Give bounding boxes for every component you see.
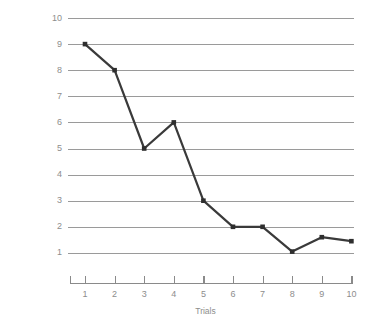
x-axis-tick-label: 1 bbox=[73, 289, 97, 299]
data-point-marker bbox=[172, 120, 177, 125]
x-axis-tick-label: 8 bbox=[280, 289, 304, 299]
x-axis-tick bbox=[174, 276, 175, 284]
x-axis-tick bbox=[144, 276, 145, 284]
x-axis-cap-left bbox=[70, 276, 71, 284]
data-series bbox=[0, 0, 367, 326]
series-markers bbox=[83, 42, 354, 254]
data-point-marker bbox=[112, 68, 117, 73]
x-axis-tick-label: 10 bbox=[339, 289, 363, 299]
x-axis-tick bbox=[115, 276, 116, 284]
x-axis-tick-label: 5 bbox=[191, 289, 215, 299]
x-axis-tick bbox=[85, 276, 86, 284]
x-axis-tick-label: 3 bbox=[132, 289, 156, 299]
x-axis-line bbox=[70, 283, 353, 284]
x-axis-tick-label: 6 bbox=[221, 289, 245, 299]
x-axis-tick bbox=[351, 276, 352, 284]
x-axis-tick-label: 2 bbox=[103, 289, 127, 299]
x-axis-tick-label: 4 bbox=[162, 289, 186, 299]
x-axis-tick-label: 9 bbox=[310, 289, 334, 299]
series-line bbox=[85, 44, 351, 252]
data-point-marker bbox=[231, 225, 236, 230]
data-point-marker bbox=[320, 235, 325, 240]
x-axis-tick-label: 7 bbox=[251, 289, 275, 299]
x-axis-tick bbox=[322, 276, 323, 284]
x-axis-title: Trials bbox=[0, 306, 367, 316]
data-point-marker bbox=[201, 198, 206, 203]
x-axis-tick bbox=[203, 276, 204, 284]
x-axis-title-text: Trials bbox=[195, 306, 215, 316]
data-point-marker bbox=[83, 42, 88, 47]
data-point-marker bbox=[349, 239, 354, 244]
data-point-marker bbox=[260, 225, 265, 230]
x-axis-tick bbox=[263, 276, 264, 284]
data-point-marker bbox=[290, 249, 295, 254]
line-chart: Response Latency (in seconds) 1098765432… bbox=[0, 0, 367, 326]
data-point-marker bbox=[142, 146, 147, 151]
x-axis-tick bbox=[292, 276, 293, 284]
x-axis-tick bbox=[233, 276, 234, 284]
